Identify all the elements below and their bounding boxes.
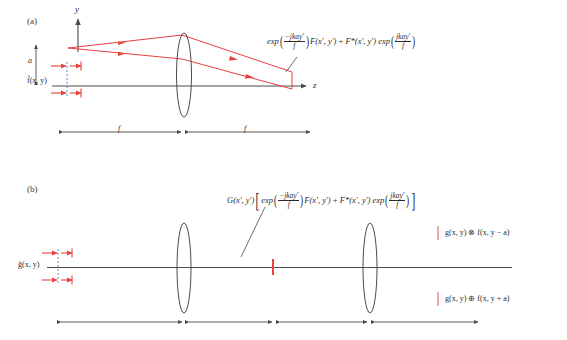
exp-label-b2: exp xyxy=(373,196,385,205)
distance-label-a-1: f xyxy=(118,124,120,133)
exp2-denominator-a: f xyxy=(395,42,411,50)
exp1-denominator-a: f xyxy=(284,42,305,50)
distance-marker-b-3 xyxy=(277,316,371,328)
output-label-upper-b: g(x, y) ⊗ f(x, y − a) xyxy=(445,228,509,237)
filter-leader-line-b xyxy=(238,205,268,261)
distance-marker-a-2 xyxy=(186,126,314,138)
distance-marker-b-2 xyxy=(186,316,276,328)
input-function-label-b: g̃(x, y) xyxy=(18,260,39,269)
distance-marker-b-4 xyxy=(372,316,482,328)
distance-marker-b-1 xyxy=(58,316,186,328)
output-label-lower-b: g(x, y) ⊕ f(x, y + a) xyxy=(445,294,509,303)
offset-a-label: a xyxy=(28,56,32,65)
term2-b: F*(x′, y′) xyxy=(340,196,371,205)
input-function-label-a: f̃(x, y) xyxy=(27,76,47,85)
plus-sign-a: + xyxy=(339,37,344,46)
lens-b-2 xyxy=(358,222,382,314)
term1-a: F(x′, y′) xyxy=(310,37,336,46)
equation-leader-line-a xyxy=(284,56,300,74)
exp-label-a2: exp xyxy=(378,37,390,46)
exp-label-b1: exp xyxy=(261,196,273,205)
term1-b: F(x′, y′) xyxy=(304,196,330,205)
panel-a-label: (a) xyxy=(27,16,37,26)
distance-marker-a-1 xyxy=(60,126,186,138)
figure-root: (a) y a f̃(x, y) z xyxy=(0,0,567,340)
output-marker-lower-b xyxy=(437,292,439,306)
lens-b-1 xyxy=(172,222,196,314)
output-equation-a: exp(−jkay′f)F(x′, y′) + F*(x′, y′) exp(j… xyxy=(267,33,416,50)
exp1-denominator-b: f xyxy=(278,201,299,209)
exp2-denominator-b: f xyxy=(389,201,405,209)
output-marker-upper-b xyxy=(437,226,439,240)
source-arrow-lower-b xyxy=(41,274,77,286)
filter-plane-marker-b xyxy=(272,259,274,275)
plus-sign-b: + xyxy=(333,196,338,205)
optical-axis-b xyxy=(47,267,512,268)
distance-label-a-2: f xyxy=(244,124,246,133)
panel-b-label: (b) xyxy=(27,184,38,194)
source-arrow-upper-b xyxy=(41,247,77,259)
term2-a: F*(x′, y′) xyxy=(345,37,376,46)
exp-label-a1: exp xyxy=(267,37,279,46)
filter-prefix-b: G(x′, y′) xyxy=(227,196,254,205)
lens-a xyxy=(172,32,196,118)
y-axis-label: y xyxy=(75,4,79,14)
